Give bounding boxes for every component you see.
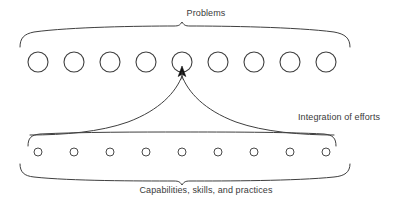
capability-circle-3: [106, 148, 114, 156]
problem-circle-3: [100, 52, 120, 72]
problems-label: Problems: [0, 8, 412, 19]
problem-circle-4: [136, 52, 156, 72]
capability-circle-7: [250, 148, 258, 156]
middle-brace: [28, 132, 336, 146]
capabilities-skills-practices-label: Capabilities, skills, and practices: [0, 185, 412, 196]
problem-circle-6: [208, 52, 228, 72]
problem-circle-2: [64, 52, 84, 72]
problem-circle-9: [316, 52, 336, 72]
capability-circle-9: [322, 148, 330, 156]
integration-funnel: [30, 76, 334, 135]
capability-circle-1: [34, 148, 42, 156]
diagram-canvas: [0, 0, 412, 207]
capability-circle-2: [70, 148, 78, 156]
integration-of-efforts-diagram: Problems Integration of efforts Capabili…: [0, 0, 412, 207]
problem-circle-7: [244, 52, 264, 72]
capability-circle-5: [178, 148, 186, 156]
bottom-brace: [20, 164, 350, 185]
problem-circle-1: [28, 52, 48, 72]
capability-circle-4: [142, 148, 150, 156]
capability-circle-8: [286, 148, 294, 156]
top-brace: [20, 22, 350, 47]
capabilities-circle-row: [34, 148, 330, 156]
capability-circle-6: [214, 148, 222, 156]
problem-circle-8: [280, 52, 300, 72]
integration-of-efforts-label: Integration of efforts: [298, 112, 380, 123]
